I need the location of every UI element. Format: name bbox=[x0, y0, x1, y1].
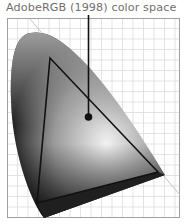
white-point-dot bbox=[85, 113, 93, 121]
chromaticity-diagram bbox=[0, 0, 187, 224]
